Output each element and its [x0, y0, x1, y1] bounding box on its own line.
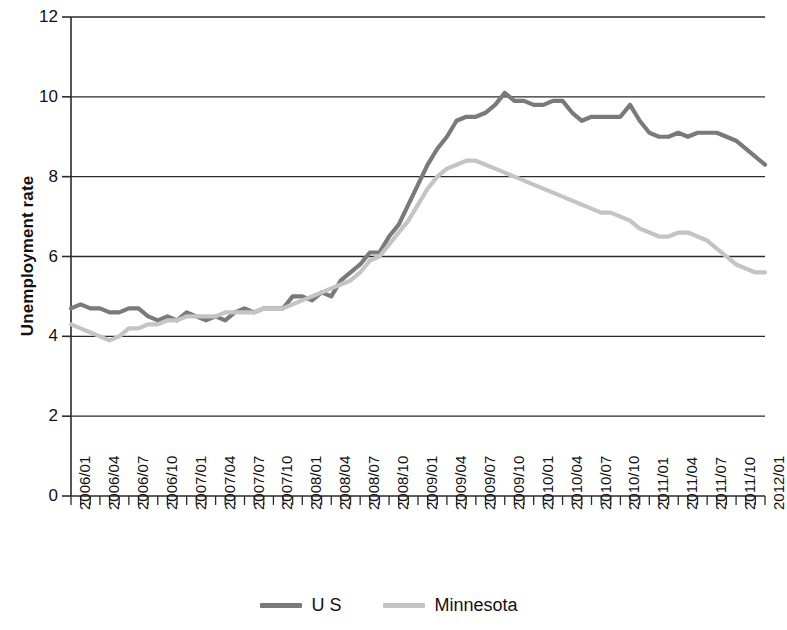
x-axis-tick-label: 2010/04: [569, 456, 584, 510]
x-axis-tick-label: 2010/07: [598, 456, 613, 510]
y-axis-tick-label: 0: [14, 487, 58, 504]
x-axis-tick-label: 2009/01: [424, 456, 439, 510]
legend-swatch: [383, 603, 425, 608]
y-axis-tick-label: 6: [14, 248, 58, 265]
x-axis-tick-label: 2007/04: [222, 456, 237, 510]
x-axis-tick-label: 2007/07: [251, 456, 266, 510]
x-axis-tick-label: 2009/04: [453, 456, 468, 510]
y-axis-tick-label: 12: [14, 8, 58, 25]
x-axis-tick-label: 2006/04: [106, 456, 121, 510]
y-axis-tick-label: 8: [14, 168, 58, 185]
x-axis-tick-label: 2012/01: [771, 456, 786, 510]
x-axis-tick-label: 2011/01: [655, 457, 670, 510]
x-axis-tick-label: 2008/07: [366, 456, 381, 510]
y-axis-tick-label: 4: [14, 327, 58, 344]
y-axis-tick-label: 2: [14, 407, 58, 424]
x-axis-tick-label: 2011/04: [684, 457, 699, 510]
x-axis-tick-label: 2011/07: [713, 457, 728, 510]
x-axis-tick-label: 2007/10: [279, 456, 294, 510]
x-axis-tick-label: 2010/10: [626, 456, 641, 510]
x-axis-tick-label: 2006/10: [164, 456, 179, 510]
x-axis-tick-label: 2009/07: [482, 456, 497, 510]
x-axis-tick-label: 2007/01: [193, 456, 208, 510]
x-axis-tick-label: 2008/10: [395, 456, 410, 510]
legend-item-us: U S: [260, 596, 341, 614]
legend-label: Minnesota: [434, 596, 517, 614]
x-axis-tick-label: 2006/07: [135, 456, 150, 510]
x-axis-tick-label: 2011/10: [742, 457, 757, 510]
legend-swatch: [260, 603, 302, 608]
x-axis-tick-label: 2008/04: [337, 456, 352, 510]
x-axis-tick-label: 2009/10: [511, 456, 526, 510]
chart-legend: U SMinnesota: [0, 596, 778, 614]
x-axis-tick-label: 2010/01: [540, 456, 555, 510]
y-axis-tick-label: 10: [14, 88, 58, 105]
x-axis-tick-label: 2008/01: [308, 456, 323, 510]
x-axis-tick-label: 2006/01: [77, 456, 92, 510]
legend-item-minnesota: Minnesota: [383, 596, 517, 614]
legend-label: U S: [311, 596, 341, 614]
